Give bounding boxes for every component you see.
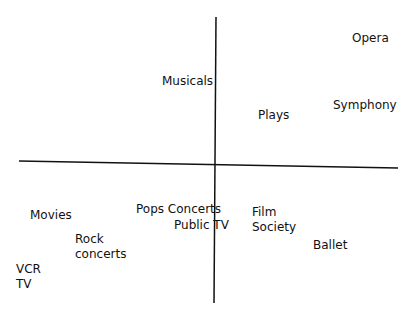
point-label: Film Society (252, 205, 302, 235)
point-label: Plays (258, 108, 289, 123)
axes (0, 0, 408, 318)
point-label: Rock concerts (75, 232, 135, 262)
point-label: Public TV (174, 218, 229, 233)
vertical-axis (214, 17, 216, 303)
horizontal-axis (19, 161, 398, 168)
point-label: Ballet (313, 238, 347, 253)
point-label: Movies (30, 208, 72, 223)
point-label: VCR TV (16, 262, 46, 292)
point-label: Musicals (162, 74, 213, 89)
point-label: Pops Concerts (136, 202, 221, 217)
point-label: Opera (352, 31, 389, 46)
point-label: Symphony (333, 98, 397, 113)
